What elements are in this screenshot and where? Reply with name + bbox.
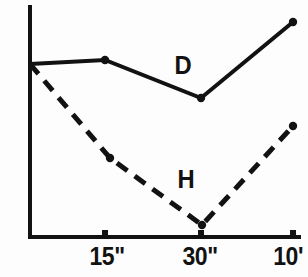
chart-plot-area: [0, 0, 308, 277]
data-point-h-1: [198, 221, 206, 229]
chart-figure: 15" 30" 10' D H: [0, 0, 308, 277]
series-label-d: D: [174, 53, 191, 78]
data-point-d-2: [289, 18, 297, 26]
x-tick-label-10m: 10': [273, 244, 303, 269]
x-axis-tick-1: [198, 230, 204, 238]
data-point-d-1: [197, 94, 205, 102]
series-label-h: H: [177, 167, 194, 192]
data-point-d-0: [101, 56, 109, 64]
series-markers: [101, 18, 297, 229]
x-tick-label-15s: 15": [90, 244, 125, 269]
data-point-h-0: [106, 154, 114, 162]
x-axis-tick-2: [290, 230, 296, 238]
series-lines: [30, 22, 293, 225]
series-line-h: [30, 64, 293, 225]
data-point-h-2: [289, 122, 297, 130]
x-axis-tick-0: [102, 230, 108, 238]
x-tick-label-30s: 30": [183, 244, 218, 269]
series-line-d: [30, 22, 293, 98]
